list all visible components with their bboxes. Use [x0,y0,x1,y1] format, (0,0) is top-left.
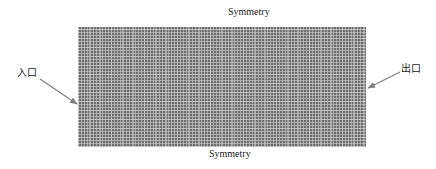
outlet-arrow-icon [368,72,400,88]
inlet-arrow-icon [40,79,77,104]
annotation-arrows [0,0,436,169]
